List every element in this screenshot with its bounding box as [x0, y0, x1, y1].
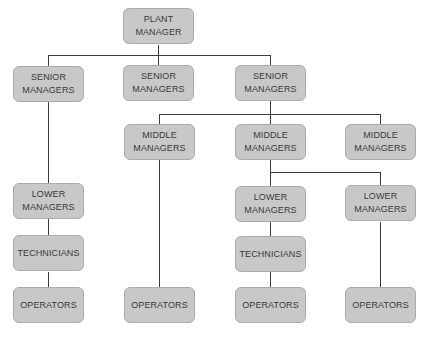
connector-line [159, 160, 160, 287]
connector-line [159, 114, 160, 124]
connector-line [158, 55, 159, 65]
node-operators-2: OPERATORS [124, 287, 195, 323]
node-plant-manager: PLANT MANAGER [123, 8, 194, 44]
connector-line [270, 114, 271, 124]
org-chart: PLANT MANAGER SENIOR MANAGERS SENIOR MAN… [0, 0, 429, 340]
node-technicians-2: TECHNICIANS [235, 236, 306, 272]
node-technicians-1: TECHNICIANS [13, 235, 84, 271]
connector-line [158, 45, 159, 55]
connector-line [48, 102, 49, 183]
connector-line [48, 55, 49, 66]
node-senior-managers-3: SENIOR MANAGERS [235, 65, 306, 101]
connector-line [270, 222, 271, 236]
connector-line [48, 219, 49, 235]
connector-line [270, 55, 271, 65]
node-lower-managers-1: LOWER MANAGERS [13, 183, 84, 219]
connector-line [270, 172, 381, 173]
node-middle-managers-2: MIDDLE MANAGERS [235, 124, 306, 160]
connector-line [270, 272, 271, 287]
connector-line [380, 114, 381, 124]
connector-line [270, 101, 271, 114]
node-operators-3: OPERATORS [235, 287, 306, 323]
node-middle-managers-3: MIDDLE MANAGERS [345, 124, 416, 160]
node-operators-4: OPERATORS [345, 287, 416, 323]
connector-line [380, 222, 381, 287]
node-lower-managers-2: LOWER MANAGERS [235, 186, 306, 222]
connector-line [380, 172, 381, 186]
connector-line [48, 272, 49, 287]
node-middle-managers-1: MIDDLE MANAGERS [124, 124, 195, 160]
node-senior-managers-2: SENIOR MANAGERS [123, 65, 194, 101]
node-lower-managers-3: LOWER MANAGERS [345, 185, 416, 221]
connector-line [48, 55, 271, 56]
node-operators-1: OPERATORS [13, 287, 84, 323]
node-senior-managers-1: SENIOR MANAGERS [13, 66, 84, 102]
